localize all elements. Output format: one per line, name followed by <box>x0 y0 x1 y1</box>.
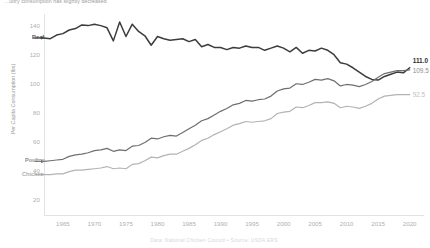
series-line-beef <box>44 22 410 80</box>
series-line-chicken <box>44 95 410 175</box>
end-value-chicken: 92.5 <box>413 92 425 98</box>
series-label-poultry: Poultry <box>25 158 44 164</box>
chart-footer-credit: Data: National Chicken Council • Source:… <box>0 237 428 243</box>
series-label-chicken: Chicken <box>22 172 44 178</box>
series-label-beef: Beef <box>32 35 44 41</box>
end-value-beef: 111.0 <box>413 58 428 64</box>
end-value-poultry: 109.5 <box>413 68 429 74</box>
series-line-poultry <box>44 70 410 162</box>
